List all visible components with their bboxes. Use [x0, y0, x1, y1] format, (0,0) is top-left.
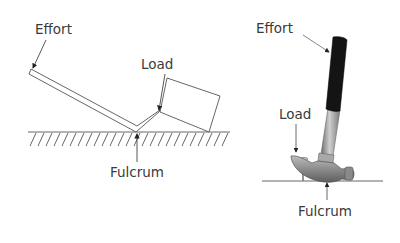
ground-surface: [28, 132, 230, 146]
hammer-lever-diagram: Effort Load Fulcrum: [256, 20, 383, 219]
hammer-effort-arrow-icon: [303, 35, 329, 52]
effort-arrow-icon: [33, 40, 46, 68]
hammer-load-label: Load: [279, 106, 311, 122]
hammer-grip: [326, 37, 347, 112]
ground-hatching: [30, 133, 228, 146]
hammer-effort-label: Effort: [256, 20, 293, 36]
hammer-shaft: [321, 108, 340, 156]
simple-lever-diagram: Effort Load Fulcrum: [28, 21, 230, 180]
load-label: Load: [141, 56, 173, 72]
effort-label: Effort: [35, 21, 72, 37]
load-box: [160, 78, 220, 132]
fulcrum-label: Fulcrum: [110, 164, 164, 180]
lever-bar: [29, 69, 160, 132]
hammer-face: [345, 167, 353, 180]
lever-diagrams: Effort Load Fulcrum Effort Load: [0, 0, 400, 243]
hammer-fulcrum-label: Fulcrum: [298, 203, 352, 219]
